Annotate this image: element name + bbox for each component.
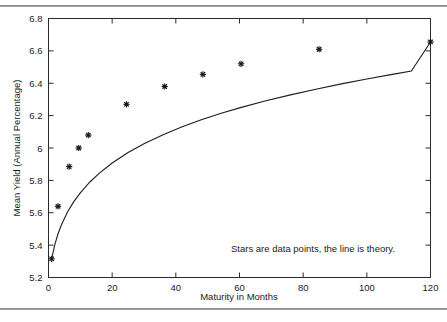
x-tick-label: 20 [107, 282, 118, 293]
y-axis-title: Mean Yield (Annual Percentage) [11, 80, 22, 217]
data-point-star [76, 145, 82, 151]
data-point-star [238, 61, 244, 67]
y-tick-label: 5.2 [29, 272, 42, 283]
scan-artifact-rule-top [0, 5, 447, 7]
data-point-star [85, 132, 91, 138]
x-tick-label: 80 [298, 282, 309, 293]
data-point-markers [49, 39, 434, 262]
y-tick-label: 6.6 [29, 45, 42, 56]
y-tick-label: 6.4 [29, 78, 42, 89]
data-point-star [123, 101, 129, 107]
data-point-star [66, 164, 72, 170]
x-tick-label: 120 [423, 282, 439, 293]
y-tick-label: 6.8 [29, 13, 42, 24]
x-tick-label: 40 [171, 282, 182, 293]
x-axis-ticks [49, 19, 431, 278]
chart-figure: 020406080100120 5.25.45.65.866.26.46.66.… [0, 0, 447, 322]
y-tick-label: 5.4 [29, 240, 42, 251]
data-point-star [49, 256, 55, 262]
y-tick-label: 5.8 [29, 175, 42, 186]
data-point-star [427, 39, 433, 45]
data-point-star [162, 83, 168, 89]
x-tick-label: 100 [359, 282, 375, 293]
data-point-star [200, 71, 206, 77]
scatter-plot: 020406080100120 5.25.45.65.866.26.46.66.… [0, 0, 447, 322]
theory-line [52, 42, 431, 259]
y-axis-tick-labels: 5.25.45.65.866.26.46.66.8 [29, 13, 42, 283]
chart-annotation: Stars are data points, the line is theor… [231, 243, 395, 254]
plot-frame [49, 19, 431, 278]
y-axis-ticks [49, 19, 431, 278]
x-tick-label: 0 [46, 282, 51, 293]
y-tick-label: 6 [37, 143, 42, 154]
data-point-star [55, 203, 61, 209]
y-tick-label: 5.6 [29, 207, 42, 218]
scan-artifact-rule-bottom [0, 308, 447, 310]
data-point-star [316, 46, 322, 52]
y-tick-label: 6.2 [29, 110, 42, 121]
x-axis-title: Maturity in Months [200, 291, 278, 302]
